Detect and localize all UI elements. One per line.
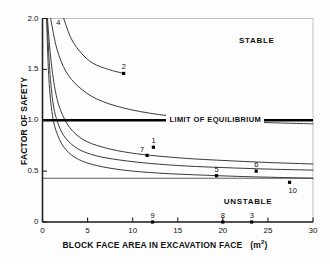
data-point-marker-2 — [122, 72, 125, 75]
data-point-marker-1 — [152, 146, 155, 149]
y-tick-label-0.5: 0.5 — [13, 166, 39, 175]
chart-figure: BLOCK FACE AREA IN EXCAVATION FACE (m2) … — [0, 0, 330, 264]
data-point-marker-5 — [215, 174, 218, 177]
annotation-limit-of-equilibrium: LIMIT OF EQUILIBRIUM — [166, 115, 264, 124]
data-point-marker-8 — [221, 220, 224, 223]
point-label-6: 6 — [254, 160, 258, 169]
point-label-8: 8 — [221, 211, 225, 220]
point-label-2: 2 — [122, 62, 126, 71]
point-label-4: 4 — [56, 18, 60, 27]
y-tick-label-0: 0 — [13, 217, 39, 226]
annotation-unstable: UNSTABLE — [224, 197, 273, 206]
plot-canvas — [0, 0, 330, 264]
point-label-3: 3 — [250, 211, 254, 220]
x-tick-label-5: 5 — [76, 226, 100, 235]
point-label-1: 1 — [151, 136, 155, 145]
y-tick-label-2.0: 2.0 — [13, 14, 39, 23]
x-axis-title: BLOCK FACE AREA IN EXCAVATION FACE (m2) — [0, 239, 330, 250]
annotation-stable: STABLE — [239, 36, 275, 45]
y-tick-label-1.0: 1.0 — [13, 115, 39, 124]
curve-curve-e — [51, 19, 313, 124]
x-tick-label-15: 15 — [166, 226, 190, 235]
point-label-10: 10 — [289, 186, 297, 195]
x-tick-label-25: 25 — [256, 226, 280, 235]
data-point-marker-3 — [250, 220, 253, 223]
point-label-9: 9 — [151, 211, 155, 220]
x-tick-label-0: 0 — [31, 226, 55, 235]
x-tick-label-10: 10 — [121, 226, 145, 235]
x-axis-title-text: BLOCK FACE AREA IN EXCAVATION FACE — [62, 240, 242, 250]
point-label-7: 7 — [140, 145, 144, 154]
point-label-5: 5 — [215, 165, 219, 174]
curve-curve-d — [64, 19, 124, 74]
x-axis-unit: (m2) — [242, 240, 267, 250]
data-point-marker-6 — [255, 170, 258, 173]
data-point-marker-10 — [288, 181, 291, 184]
x-tick-label-30: 30 — [301, 226, 325, 235]
data-point-marker-9 — [151, 220, 154, 223]
data-point-marker-7 — [145, 154, 148, 157]
y-tick-label-1.5: 1.5 — [13, 64, 39, 73]
x-tick-label-20: 20 — [211, 226, 235, 235]
